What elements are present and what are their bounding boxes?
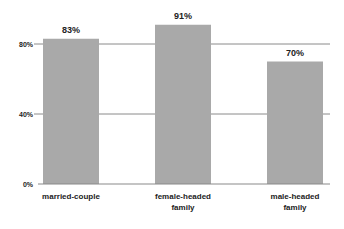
category-labels: married-couplefemale-headedfamilymale-he… xyxy=(42,192,319,212)
data-label: 91% xyxy=(174,11,192,21)
bar-0 xyxy=(43,39,99,184)
category-label: female-headed xyxy=(155,192,211,201)
bar-2 xyxy=(267,62,323,185)
category-label: married-couple xyxy=(42,192,100,201)
y-tick-label: 40% xyxy=(19,111,34,118)
y-tick-label: 0% xyxy=(23,181,34,188)
category-label: male-headed xyxy=(271,192,320,201)
data-label: 70% xyxy=(286,48,304,58)
category-label: family xyxy=(171,203,195,212)
y-axis-ticks: 0%40%80% xyxy=(19,41,34,188)
category-label: family xyxy=(283,203,307,212)
bars xyxy=(43,25,323,184)
bar-chart: 0%40%80% 83%91%70% married-couplefemale-… xyxy=(0,0,344,229)
bar-1 xyxy=(155,25,211,184)
data-label: 83% xyxy=(62,25,80,35)
y-tick-label: 80% xyxy=(19,41,34,48)
